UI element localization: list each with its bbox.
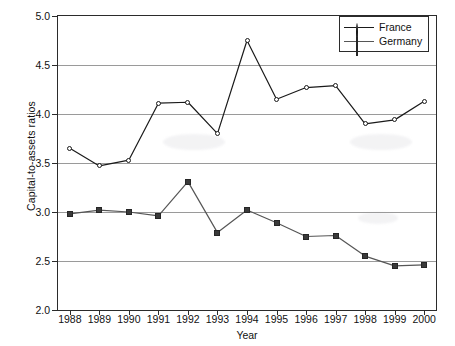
data-point-france-1994 — [245, 38, 250, 43]
data-point-germany-1988 — [67, 211, 73, 217]
data-point-germany-1990 — [126, 209, 132, 215]
data-point-germany-1989 — [96, 207, 102, 213]
data-point-france-1995 — [274, 97, 279, 102]
data-point-france-1990 — [126, 158, 131, 163]
data-point-france-1996 — [304, 85, 309, 90]
chart-figure: Capital-to-assets ratios 5.04.54.03.53.0… — [0, 0, 455, 346]
series-line-germany — [70, 182, 424, 266]
data-point-france-1991 — [156, 101, 161, 106]
y-tick-label: 2.0 — [24, 305, 50, 315]
x-axis-label: Year — [57, 329, 437, 341]
legend-label-france: France — [374, 21, 412, 33]
legend-swatch-france — [344, 21, 374, 33]
y-tick-label: 3.5 — [24, 158, 50, 168]
data-point-germany-1992 — [185, 179, 191, 185]
data-point-france-2000 — [422, 99, 427, 104]
legend-item-germany[interactable]: Germany — [344, 34, 422, 48]
y-tick-label: 5.0 — [24, 11, 50, 21]
series-lines — [58, 16, 436, 310]
x-tick-label: 2000 — [404, 313, 444, 326]
data-point-germany-1994 — [244, 207, 250, 213]
data-point-germany-1993 — [214, 230, 220, 236]
y-axis-ticks: 5.04.54.03.53.02.52.0 — [22, 0, 50, 346]
data-point-germany-1991 — [155, 213, 161, 219]
y-tick-label: 4.5 — [24, 60, 50, 70]
legend-label-germany: Germany — [374, 35, 422, 47]
data-point-germany-1999 — [392, 263, 398, 269]
y-tick-label: 4.0 — [24, 109, 50, 119]
chart-legend: France Germany — [339, 16, 429, 52]
data-point-germany-2000 — [421, 262, 427, 268]
series-line-france — [70, 41, 424, 166]
legend-item-france[interactable]: France — [344, 20, 422, 34]
data-point-germany-1995 — [274, 220, 280, 226]
data-point-germany-1997 — [333, 233, 339, 239]
plot-area — [57, 15, 437, 311]
data-point-france-1998 — [363, 121, 368, 126]
y-tick-label: 3.0 — [24, 207, 50, 217]
legend-swatch-germany — [344, 35, 374, 47]
data-point-germany-1998 — [362, 253, 368, 259]
filled-square-icon — [356, 38, 358, 56]
y-tick-label: 2.5 — [24, 256, 50, 266]
data-point-germany-1996 — [303, 234, 309, 240]
